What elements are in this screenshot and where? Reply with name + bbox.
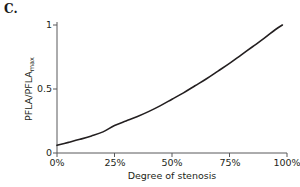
y-axis-ticks bbox=[53, 25, 57, 153]
x-tick-label-50: 50% bbox=[161, 157, 182, 168]
y-axis-title-subscript: max bbox=[28, 57, 36, 71]
x-tick-label-0: 0% bbox=[49, 157, 64, 168]
y-axis-title-wrap: PFLA/PFLAmax bbox=[22, 25, 36, 153]
x-axis-title: Degree of stenosis bbox=[57, 170, 287, 181]
y-axis-title: PFLA/PFLAmax bbox=[23, 57, 36, 121]
y-axis-title-base: PFLA/PFLA bbox=[23, 71, 34, 121]
x-axis-ticks bbox=[57, 153, 287, 157]
x-tick-label-25: 25% bbox=[104, 157, 125, 168]
chart-canvas bbox=[57, 25, 287, 153]
data-curve bbox=[57, 25, 282, 145]
x-tick-label-75: 75% bbox=[219, 157, 240, 168]
figure-panel-c: C. 1 0.5 0 0% 25% 50% 75% 100% Degree of… bbox=[0, 0, 300, 187]
plot-area bbox=[57, 25, 287, 153]
x-tick-label-100: 100% bbox=[273, 157, 300, 168]
